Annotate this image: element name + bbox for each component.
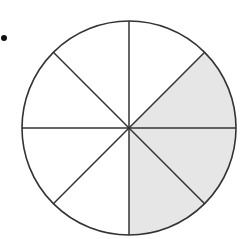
fraction-circle-diagram [0,0,244,239]
bullet-dot [1,35,7,41]
sector-right-upper [129,52,236,128]
sector-dividers [22,21,236,235]
